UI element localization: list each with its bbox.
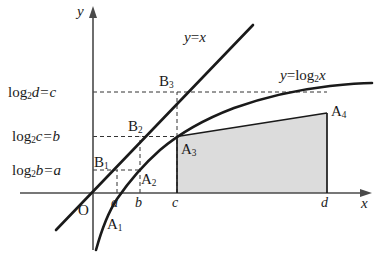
identity-line <box>56 25 253 230</box>
y-axis-arrowhead <box>89 6 97 18</box>
y-tick-label-log2c: log2c=b <box>12 129 60 144</box>
y-tick-label-log2b: log2b=a <box>12 163 61 178</box>
x-tick-label-b: b <box>135 196 142 210</box>
math-figure-log-curve: log2d=c log2c=b log2b=a y x O a b c d y=… <box>0 0 387 257</box>
point-label-b1: B1 <box>94 155 109 170</box>
x-tick-label-d: d <box>321 196 328 210</box>
point-label-a2: A2 <box>141 172 157 187</box>
x-tick-label-a: a <box>111 196 118 210</box>
x-axis-label: x <box>361 196 368 211</box>
origin-label: O <box>78 203 89 218</box>
point-label-b3: B3 <box>159 74 174 89</box>
y-tick-label-log2d: log2d=c <box>8 85 56 100</box>
curve-label-log: y=log2x <box>280 68 326 83</box>
y-axis-label: y <box>77 4 84 19</box>
point-label-a3: A3 <box>181 142 197 157</box>
point-label-b2: B2 <box>128 119 143 134</box>
curve-label-identity: y=x <box>184 30 206 45</box>
x-tick-label-c: c <box>172 196 178 210</box>
point-label-a4: A4 <box>331 104 347 119</box>
point-label-a1: A1 <box>107 217 123 232</box>
